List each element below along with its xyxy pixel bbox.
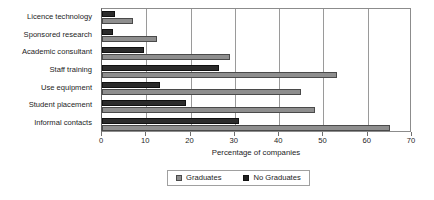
bar-graduates — [102, 125, 390, 131]
bar-graduates — [102, 72, 337, 78]
legend-item-graduates: Graduates — [176, 173, 221, 182]
x-axis-tick-labels: 010203040506070 — [0, 136, 434, 148]
category-label: Licence technology — [27, 12, 92, 21]
category-label: Sponsored research — [24, 30, 92, 39]
gridline — [323, 9, 324, 131]
x-tick-label: 70 — [399, 136, 423, 145]
legend-swatch-graduates — [176, 175, 182, 181]
bar-no-graduates — [102, 29, 113, 35]
x-tick-label: 10 — [133, 136, 157, 145]
bar-no-graduates — [102, 82, 160, 88]
bar-chart: Licence technologySponsored researchAcad… — [0, 0, 434, 200]
chart-legend: Graduates No Graduates — [167, 170, 310, 186]
bar-no-graduates — [102, 65, 219, 71]
legend-swatch-no-graduates — [243, 175, 249, 181]
legend-label-graduates: Graduates — [186, 173, 221, 182]
bar-graduates — [102, 54, 230, 60]
x-tick-label: 30 — [222, 136, 246, 145]
bar-graduates — [102, 89, 301, 95]
x-tick-label: 50 — [310, 136, 334, 145]
category-label: Academic consultant — [22, 47, 92, 56]
bar-graduates — [102, 107, 315, 113]
x-tick-label: 20 — [178, 136, 202, 145]
category-label: Informal contacts — [34, 118, 92, 127]
x-tick-label: 0 — [89, 136, 113, 145]
category-axis-labels: Licence technologySponsored researchAcad… — [0, 8, 96, 132]
bar-no-graduates — [102, 47, 144, 53]
category-label: Student placement — [29, 100, 92, 109]
bar-graduates — [102, 36, 157, 42]
category-label: Use equipment — [41, 83, 92, 92]
x-axis-title: Percentage of companies — [101, 148, 411, 157]
x-tick-label: 60 — [355, 136, 379, 145]
legend-item-no-graduates: No Graduates — [243, 173, 300, 182]
x-tick-label: 40 — [266, 136, 290, 145]
legend-label-no-graduates: No Graduates — [253, 173, 300, 182]
bar-no-graduates — [102, 11, 115, 17]
bar-no-graduates — [102, 118, 239, 124]
plot-inner — [102, 9, 410, 131]
gridline — [368, 9, 369, 131]
category-label: Staff training — [50, 65, 93, 74]
bar-no-graduates — [102, 100, 186, 106]
plot-area — [101, 8, 411, 132]
bar-graduates — [102, 18, 133, 24]
